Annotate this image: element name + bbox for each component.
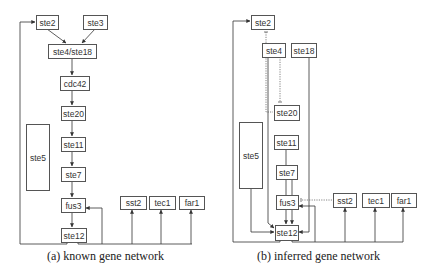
gene-label: ste12 bbox=[64, 231, 85, 241]
gene-label: ste7 bbox=[279, 168, 295, 178]
gene-label: sst2 bbox=[337, 196, 353, 206]
gene-node-known-ste3: ste3 bbox=[84, 16, 108, 30]
gene-node-inferred-ste20: ste20 bbox=[275, 106, 300, 121]
gene-label: far1 bbox=[397, 196, 412, 206]
edge-ste2-ste4ste18 bbox=[47, 29, 66, 43]
gene-label: tec1 bbox=[368, 196, 384, 206]
gene-node-known-ste5: ste5 bbox=[27, 125, 50, 191]
gene-node-inferred-ste4: ste4 bbox=[263, 44, 286, 58]
gene-label: ste11 bbox=[276, 138, 296, 148]
gene-label: tec1 bbox=[154, 198, 170, 208]
gene-label: sst2 bbox=[126, 198, 142, 208]
gene-network-diagram: ste2ste3ste4/ste18cdc42ste20ste11ste7ste… bbox=[0, 0, 432, 278]
gene-node-inferred-sst2: sst2 bbox=[334, 194, 357, 208]
gene-node-inferred-ste2: ste2 bbox=[252, 16, 275, 30]
gene-label: ste3 bbox=[87, 18, 103, 28]
gene-label: ste20 bbox=[277, 108, 298, 118]
gene-label: ste2 bbox=[255, 18, 271, 28]
gene-label: ste7 bbox=[65, 170, 81, 180]
gene-node-inferred-ste11: ste11 bbox=[275, 136, 299, 150]
gene-node-inferred-tec1: tec1 bbox=[363, 194, 390, 208]
gene-label: ste2 bbox=[39, 18, 55, 28]
gene-label: ste4 bbox=[266, 46, 282, 56]
gene-node-inferred-fus3: fus3 bbox=[277, 196, 299, 210]
edge-ste12-fus3 bbox=[86, 208, 102, 244]
edge-ste4-ste12 bbox=[268, 57, 274, 228]
gene-label: ste18 bbox=[294, 46, 315, 56]
gene-label: ste12 bbox=[277, 228, 298, 238]
caption-inferred-network: (b) inferred gene network bbox=[257, 249, 380, 264]
gene-node-known-ste4_ste18: ste4/ste18 bbox=[49, 45, 97, 59]
gene-node-known-ste2: ste2 bbox=[37, 16, 59, 30]
gene-label: fus3 bbox=[279, 198, 295, 208]
gene-label: far1 bbox=[185, 198, 200, 208]
gene-nodes: ste2ste3ste4/ste18cdc42ste20ste11ste7ste… bbox=[27, 16, 417, 243]
edge-ste12-bus bbox=[78, 242, 192, 244]
gene-node-known-ste11: ste11 bbox=[62, 138, 86, 152]
gene-node-known-ste12: ste12 bbox=[62, 229, 87, 243]
gene-node-inferred-ste7: ste7 bbox=[277, 166, 298, 180]
caption-known-network: (a) known gene network bbox=[47, 249, 164, 264]
gene-label: cdc42 bbox=[64, 79, 87, 89]
gene-label: ste5 bbox=[243, 151, 259, 161]
gene-node-known-ste7: ste7 bbox=[62, 168, 86, 182]
gene-node-known-ste20: ste20 bbox=[62, 107, 86, 121]
gene-node-known-cdc42: cdc42 bbox=[61, 77, 90, 91]
gene-node-known-tec1: tec1 bbox=[150, 197, 176, 210]
gene-node-inferred-ste18: ste18 bbox=[292, 44, 317, 58]
gene-label: ste20 bbox=[63, 109, 84, 119]
gene-label: fus3 bbox=[65, 201, 81, 211]
edge-ste12-bus bbox=[292, 240, 403, 242]
gene-node-inferred-ste5: ste5 bbox=[240, 123, 263, 189]
edge-ste3-ste4ste18 bbox=[82, 29, 95, 43]
gene-node-known-sst2: sst2 bbox=[121, 197, 147, 210]
gene-node-inferred-far1: far1 bbox=[392, 194, 417, 208]
gene-node-known-fus3: fus3 bbox=[62, 199, 86, 213]
gene-label: ste4/ste18 bbox=[53, 47, 92, 57]
gene-node-known-far1: far1 bbox=[180, 197, 205, 210]
gene-label: ste5 bbox=[30, 153, 46, 163]
gene-node-inferred-ste12: ste12 bbox=[276, 226, 299, 241]
edge-ste12-fus3 bbox=[299, 206, 315, 242]
gene-label: ste11 bbox=[63, 140, 83, 150]
